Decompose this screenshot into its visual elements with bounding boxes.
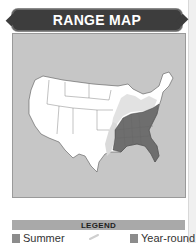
page-title: RANGE MAP — [53, 12, 141, 28]
legend-label: Summer — [23, 233, 65, 243]
legend-label: Year-round — [141, 233, 195, 243]
legend-item-year-round: Year-round — [130, 233, 195, 243]
title-banner: RANGE MAP — [12, 9, 182, 31]
us-map-icon — [13, 34, 185, 197]
feather-icon — [89, 234, 99, 240]
summer-swatch-icon — [12, 234, 20, 243]
year-round-swatch-icon — [130, 234, 138, 243]
legend-item-summer: Summer — [12, 233, 65, 243]
legend-title: LEGEND — [81, 221, 116, 230]
page-edge — [188, 0, 196, 243]
range-map — [12, 33, 186, 198]
legend-header: LEGEND — [12, 220, 185, 230]
